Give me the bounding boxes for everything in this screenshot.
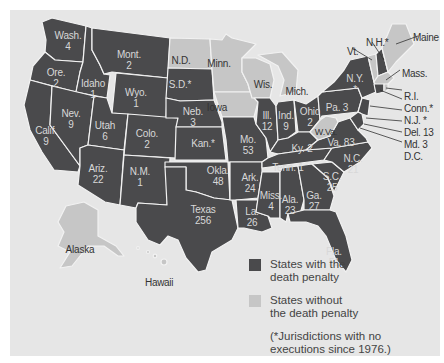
label-ill: Ill.12 xyxy=(262,110,273,132)
state-alaska xyxy=(58,202,124,268)
map-panel: Wash.4 Ore.2 Calif.9 Idaho1 Nev.9 Mont.2… xyxy=(10,10,440,356)
label-utah: Utah6 xyxy=(95,120,115,142)
state-hawaii-island xyxy=(153,254,157,258)
label-idaho: Idaho1 xyxy=(81,78,105,100)
label-del: Del. 13 xyxy=(404,127,434,138)
label-sc: S.C.25 xyxy=(323,171,342,193)
state-hawaii-island xyxy=(137,247,140,250)
label-hawaii: Hawaii xyxy=(145,277,173,288)
label-ariz: Ariz.22 xyxy=(88,163,107,185)
legend-label: death penalty xyxy=(270,271,339,283)
label-pa: Pa. 3 xyxy=(326,102,348,113)
label-vt: Vt. xyxy=(347,46,358,57)
label-ind: Ind.9 xyxy=(278,110,294,132)
label-wyo: Wyo.1 xyxy=(125,87,147,109)
label-ala: Ala.23 xyxy=(282,194,298,216)
label-texas: Texas256 xyxy=(190,204,215,226)
label-ny: N.Y.* xyxy=(346,73,363,95)
label-tenn: Tenn. 1 xyxy=(272,162,303,173)
legend-label: the death penalty xyxy=(270,307,358,319)
legend-label: States without xyxy=(270,294,342,306)
state-conn xyxy=(374,84,384,94)
label-wva: W.Va. xyxy=(315,127,337,138)
label-mo: Mo.53 xyxy=(240,134,256,156)
label-alaska: Alaska xyxy=(66,244,95,255)
label-ark: Ark.24 xyxy=(242,172,259,194)
label-maine: Maine xyxy=(413,32,439,43)
label-mich: Mich. xyxy=(286,86,309,97)
label-mont: Mont.2 xyxy=(117,49,141,71)
label-nev: Nev.9 xyxy=(61,108,80,130)
label-nc: N.C.21 xyxy=(343,153,362,175)
label-ohio: Ohio2 xyxy=(300,106,320,128)
label-colo: Colo.2 xyxy=(136,128,158,150)
state-hawaii-island xyxy=(147,251,150,254)
label-ky: Ky. 2 xyxy=(291,143,312,154)
label-wis: Wis. xyxy=(254,79,273,90)
state-maine xyxy=(382,24,414,72)
label-sd: S.D.* xyxy=(169,79,191,90)
state-hawaii-island xyxy=(161,259,167,265)
label-neb: Neb.3 xyxy=(183,106,203,128)
label-md: Md. 3 xyxy=(404,139,428,150)
label-nj: N.J. * xyxy=(404,115,427,126)
label-mass: Mass. xyxy=(402,68,427,79)
label-nm: N.M.1 xyxy=(130,166,150,188)
label-nd: N.D. xyxy=(171,55,190,66)
label-ore: Ore.2 xyxy=(47,67,66,89)
label-ri: R.I. xyxy=(404,91,418,102)
label-conn: Conn.* xyxy=(404,103,433,114)
label-va: Va. 83 xyxy=(328,137,355,148)
label-okla: Okla.48 xyxy=(207,165,229,187)
label-iowa: Iowa xyxy=(207,102,227,113)
label-minn: Minn. xyxy=(207,58,230,69)
label-nh: N.H.* xyxy=(366,37,388,48)
legend-footnote: (*Jurisdictions with noexecutions since … xyxy=(270,330,410,356)
label-ga: Ga.27 xyxy=(306,190,322,212)
label-la: La.26 xyxy=(245,206,258,228)
label-dc: D.C. xyxy=(404,151,423,162)
map-legend: States with thedeath penalty States with… xyxy=(249,258,410,356)
label-wash: Wash.4 xyxy=(55,30,82,52)
legend-swatch-light xyxy=(249,295,261,307)
label-kan: Kan.* xyxy=(191,138,214,149)
legend-item-with: States with thedeath penalty xyxy=(249,258,410,284)
legend-item-without: States withoutthe death penalty xyxy=(249,294,410,320)
label-calif: Calif.9 xyxy=(35,125,57,147)
label-miss: Miss.4 xyxy=(260,190,282,212)
legend-label: States with the xyxy=(270,258,345,270)
legend-swatch-dark xyxy=(249,259,261,271)
